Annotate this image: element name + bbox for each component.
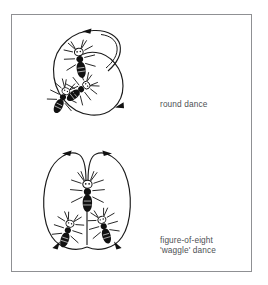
- bee-icon: [62, 39, 97, 80]
- waggle-dance-label-line-1: figure-of-eight: [160, 235, 216, 245]
- arrowhead-icon: [114, 242, 122, 250]
- round-dance-diagram: [38, 24, 138, 134]
- bee-icon: [49, 209, 88, 252]
- waggle-dance-label-line-2: 'waggle' dance: [160, 245, 216, 255]
- arrowhead-icon: [82, 28, 92, 33]
- waggle-dance-diagram: [38, 145, 138, 267]
- round-dance-svg: [38, 24, 138, 134]
- round-dance-label: round dance: [160, 99, 207, 109]
- arrowhead-icon: [52, 242, 60, 250]
- waggle-dance-svg: [38, 145, 138, 267]
- figure-frame: round dance figure-of-eight 'waggle' dan…: [11, 14, 252, 272]
- bee-icon: [85, 206, 123, 248]
- waggle-dance-label: figure-of-eight 'waggle' dance: [160, 235, 216, 256]
- round-dance-label-text: round dance: [160, 99, 207, 109]
- bee-icon: [70, 172, 104, 212]
